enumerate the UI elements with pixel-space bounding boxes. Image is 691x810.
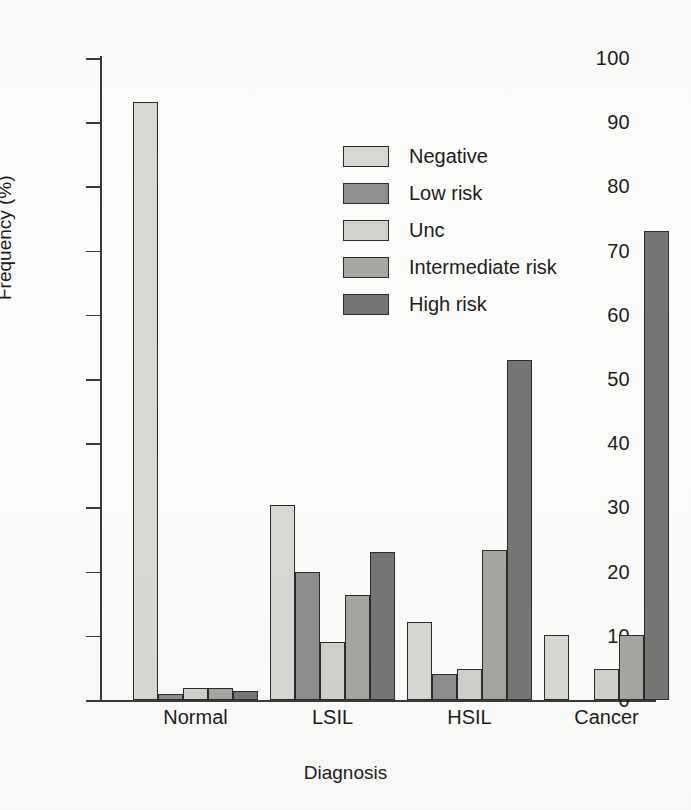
legend-swatch (343, 257, 389, 278)
legend-swatch (343, 183, 389, 204)
x-axis-line (100, 700, 656, 702)
y-tick-mark (86, 122, 100, 124)
legend-label: High risk (409, 293, 487, 316)
bar[interactable] (270, 505, 295, 700)
bar[interactable] (158, 694, 183, 700)
bar-set (544, 58, 669, 700)
y-tick-mark (86, 443, 100, 445)
legend-item[interactable]: Low risk (343, 175, 557, 212)
y-tick-mark (86, 636, 100, 638)
x-axis-label: Diagnosis (0, 762, 691, 784)
bar[interactable] (183, 688, 208, 700)
bar[interactable] (507, 360, 532, 700)
bar[interactable] (295, 572, 320, 700)
plot-area: 0102030405060708090100 NormalLSILHSILCan… (100, 58, 652, 700)
bar[interactable] (644, 231, 669, 700)
legend-label: Unc (409, 219, 445, 242)
bar-set (133, 58, 258, 700)
legend-item[interactable]: High risk (343, 286, 557, 323)
bar-group: Normal (133, 58, 258, 700)
legend-swatch (343, 146, 389, 167)
bar[interactable] (544, 635, 569, 700)
y-tick-mark (86, 700, 100, 702)
bar[interactable] (594, 669, 619, 700)
legend: NegativeLow riskUncIntermediate riskHigh… (343, 138, 557, 323)
y-tick-mark (86, 507, 100, 509)
bar[interactable] (619, 635, 644, 700)
y-tick-mark (86, 315, 100, 317)
y-tick-mark (86, 186, 100, 188)
legend-item[interactable]: Negative (343, 138, 557, 175)
bar[interactable] (432, 674, 457, 700)
legend-swatch (343, 220, 389, 241)
legend-item[interactable]: Unc (343, 212, 557, 249)
bar[interactable] (133, 102, 158, 700)
legend-label: Intermediate risk (409, 256, 557, 279)
y-tick-mark (86, 572, 100, 574)
bar[interactable] (233, 691, 258, 700)
bar[interactable] (320, 642, 345, 700)
y-tick-mark (86, 379, 100, 381)
bar[interactable] (208, 688, 233, 700)
legend-item[interactable]: Intermediate risk (343, 249, 557, 286)
bar[interactable] (407, 622, 432, 700)
legend-label: Low risk (409, 182, 482, 205)
figure-container: Frequency (%) Diagnosis 0102030405060708… (0, 0, 691, 810)
x-tick-label: Cancer (544, 706, 669, 729)
x-tick-label: HSIL (407, 706, 532, 729)
bar-group: Cancer (544, 58, 669, 700)
bar[interactable] (482, 550, 507, 700)
bar[interactable] (345, 595, 370, 700)
y-axis-label: Frequency (%) (0, 175, 16, 300)
y-tick-mark (86, 251, 100, 253)
legend-label: Negative (409, 145, 488, 168)
legend-swatch (343, 294, 389, 315)
bar[interactable] (457, 669, 482, 700)
x-tick-label: Normal (133, 706, 258, 729)
x-tick-label: LSIL (270, 706, 395, 729)
y-tick-mark (86, 58, 100, 60)
bar[interactable] (370, 552, 395, 700)
